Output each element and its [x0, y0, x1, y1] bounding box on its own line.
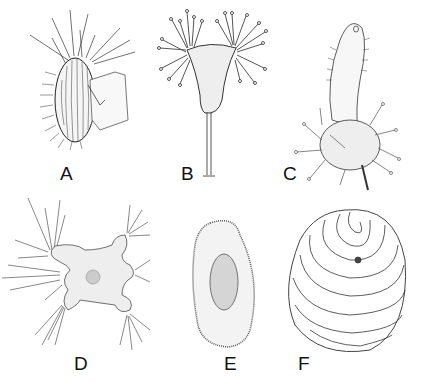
organism-a	[30, 10, 135, 150]
organism-e	[193, 221, 254, 347]
organism-c	[295, 24, 401, 190]
panel-label-f: F	[298, 353, 310, 374]
panel-label-c: C	[283, 163, 297, 184]
panel-label-e: E	[224, 353, 237, 374]
panel-label-d: D	[74, 353, 88, 374]
organism-f	[289, 210, 406, 352]
organism-d	[2, 198, 150, 350]
organism-b	[158, 10, 268, 177]
panel-label-a: A	[60, 163, 73, 184]
panel-label-b: B	[181, 163, 194, 184]
illustration-plate: A B	[0, 0, 424, 382]
